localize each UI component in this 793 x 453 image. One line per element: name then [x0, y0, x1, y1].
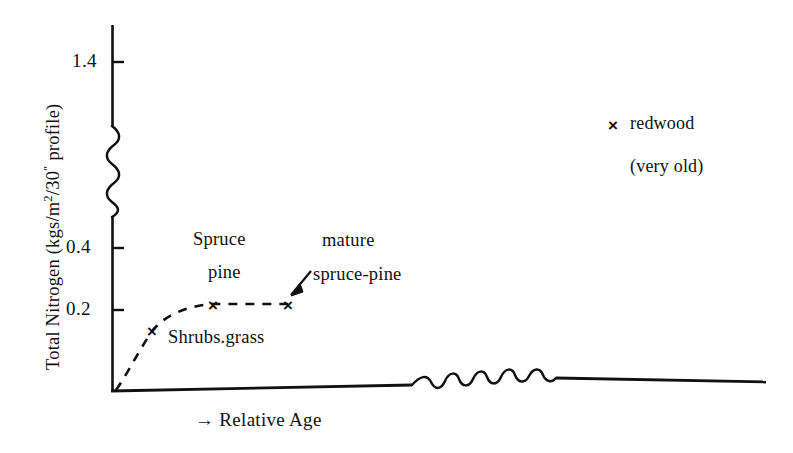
annotation-redwood: redwood	[630, 114, 694, 133]
y-axis-title-inches-mark: ″	[41, 165, 55, 170]
y-axis-title-main: Total Nitrogen (kgs/m	[43, 202, 63, 370]
y-axis-title-middle: /30	[43, 171, 63, 195]
x-axis-right-segment	[556, 378, 766, 382]
x-axis-break-icon	[412, 369, 556, 387]
y-axis-title-superscript-2: 2	[41, 195, 55, 202]
y-tick-label-0.4: 0.4	[66, 237, 91, 257]
y-axis-title-end: profile)	[43, 104, 63, 166]
annotation-pine: pine	[208, 263, 241, 282]
chart-plot-area	[0, 0, 793, 453]
data-marker-shrubs-grass: ×	[147, 323, 157, 340]
y-tick-label-1.4: 1.4	[72, 51, 97, 71]
x-axis-left-segment	[111, 385, 412, 391]
x-axis-title: → Relative Age	[195, 410, 322, 430]
y-axis-title: Total Nitrogen (kgs/m2/30″ profile)	[42, 104, 64, 370]
data-marker-redwood: ×	[608, 117, 618, 134]
annotation-redwood-note: (very old)	[630, 157, 703, 176]
y-tick-label-0.2: 0.2	[66, 299, 91, 319]
y-axis-break-icon	[107, 126, 119, 217]
annotation-spruce-pine: spruce-pine	[313, 265, 402, 284]
annotation-spruce: Spruce	[193, 230, 246, 249]
annotation-shrubs-grass: Shrubs.grass	[168, 328, 264, 347]
data-marker-mature-spruce-pine: ×	[283, 297, 293, 314]
data-marker-spruce-pine: ×	[208, 297, 218, 314]
figure-canvas: 1.4 0.4 0.2 Total Nitrogen (kgs/m2/30″ p…	[0, 0, 793, 453]
annotation-mature: mature	[322, 231, 375, 250]
spruce-pine-arrowhead	[291, 283, 303, 296]
